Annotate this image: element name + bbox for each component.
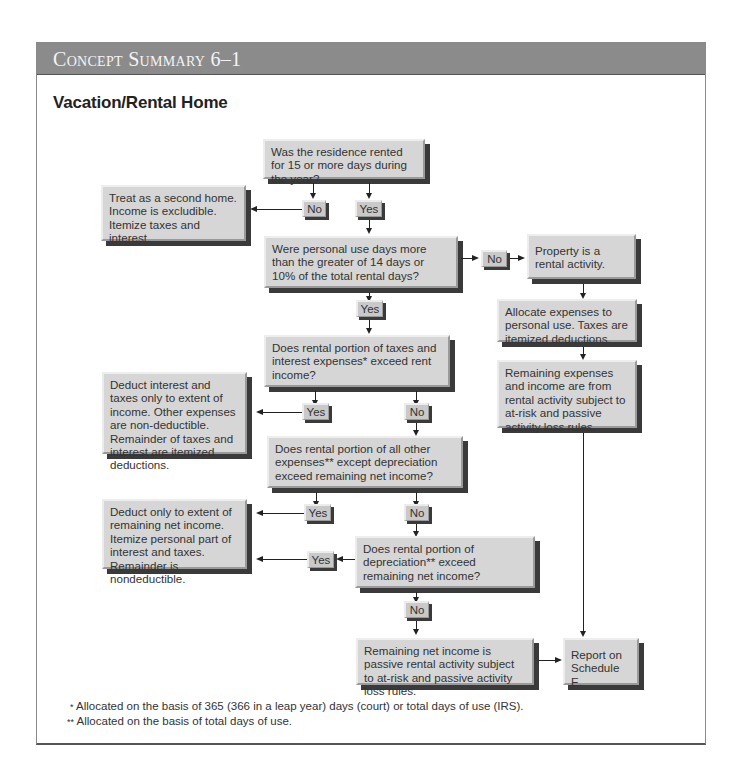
- q5-no-label: No: [404, 601, 429, 618]
- footnote-marker: *: [70, 702, 74, 712]
- connector: [262, 412, 302, 413]
- header-title: Concept Summary 6–1: [53, 48, 241, 71]
- footnote-text: Allocated on the basis of 365 (366 in a …: [76, 700, 523, 712]
- question-personal-use-days: Were personal use days more than the gre…: [264, 236, 458, 288]
- connector: [255, 209, 302, 210]
- question-depreciation-exceed: Does rental portion of depreciation** ex…: [355, 536, 535, 588]
- result-deduct-interest-taxes: Deduct interest and taxes only to extent…: [102, 372, 247, 454]
- question-rented-15-days: Was the residence rented for 15 or more …: [263, 139, 425, 179]
- footnote-1: * Allocated on the basis of 365 (366 in …: [70, 700, 524, 712]
- q4-yes-label: Yes: [304, 504, 331, 521]
- footnote-marker: **: [67, 717, 74, 727]
- footnote-2: ** Allocated on the basis of total days …: [67, 715, 292, 727]
- q5-yes-label: Yes: [307, 551, 334, 568]
- section-title: Vacation/Rental Home: [53, 93, 228, 113]
- arrow-down-icon: [413, 629, 419, 635]
- header-bar: Concept Summary 6–1: [37, 43, 705, 75]
- connector: [262, 513, 304, 514]
- allocate-expenses: Allocate expenses to personal use. Taxes…: [497, 299, 637, 342]
- arrow-right-icon: [472, 255, 479, 261]
- arrow-left-icon: [256, 556, 263, 562]
- result-report-schedule-e: Report on Schedule E.: [563, 638, 639, 685]
- connector: [583, 433, 584, 631]
- question-taxes-interest-exceed: Does rental portion of taxes and interes…: [264, 335, 450, 387]
- q4-no-label: No: [404, 504, 429, 521]
- result-remaining-net-income: Remaining net income is passive rental a…: [356, 638, 534, 685]
- arrow-down-icon: [366, 193, 372, 199]
- q3-no-label: No: [404, 403, 429, 420]
- q3-yes-label: Yes: [302, 403, 329, 420]
- arrow-down-icon: [366, 328, 372, 334]
- result-deduct-only: Deduct only to extent of remaining net i…: [102, 499, 247, 569]
- q1-no-label: No: [302, 200, 326, 217]
- result-second-home: Treat as a second home. Income is exclud…: [101, 185, 246, 241]
- arrow-right-icon: [518, 255, 525, 261]
- question-other-expenses-exceed: Does rental portion of all other expense…: [267, 436, 463, 488]
- arrow-left-icon: [256, 409, 263, 415]
- q1-yes-label: Yes: [355, 200, 382, 217]
- arrow-left-icon: [250, 206, 257, 212]
- arrow-left-icon: [336, 556, 343, 562]
- arrow-down-icon: [366, 228, 372, 234]
- arrow-down-icon: [580, 631, 586, 637]
- footnote-text: Allocated on the basis of total days of …: [77, 715, 292, 727]
- connector: [538, 660, 556, 661]
- result-rental-activity: Property is a rental activity.: [527, 234, 636, 279]
- arrow-down-icon: [310, 193, 316, 199]
- arrow-right-icon: [555, 657, 562, 663]
- connector: [262, 559, 307, 560]
- q2-yes-label: Yes: [356, 300, 383, 317]
- remaining-expenses-income: Remaining expenses and income are from r…: [497, 360, 637, 428]
- arrow-left-icon: [256, 510, 263, 516]
- q2-no-label: No: [481, 250, 507, 267]
